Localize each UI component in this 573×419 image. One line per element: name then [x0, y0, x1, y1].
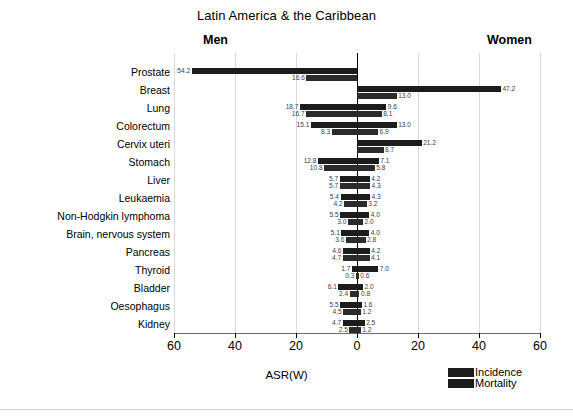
incidence-bar-right: [357, 104, 386, 110]
value-label: 3.2: [368, 201, 377, 207]
legend-label-mortality: Mortality: [475, 378, 517, 389]
mortality-bar-left: [346, 237, 357, 243]
value-label: 2.8: [367, 237, 376, 243]
category-label: Thyroid: [135, 264, 170, 276]
incidence-bar-right: [357, 140, 422, 146]
value-label: 7.0: [380, 266, 389, 272]
mortality-bar-left: [306, 75, 357, 81]
gridline: [418, 53, 419, 333]
tick-label: 60: [520, 339, 560, 353]
mortality-bar-left: [306, 111, 357, 117]
value-label: 1.6: [363, 302, 372, 308]
tick-mark: [296, 333, 297, 338]
incidence-bar-left: [311, 122, 357, 128]
tick-label: 40: [215, 339, 255, 353]
value-label: 0.8: [361, 291, 370, 297]
incidence-bar-right: [357, 230, 369, 236]
incidence-bar-right: [357, 194, 370, 200]
mortality-bar-left: [348, 219, 357, 225]
value-label: 1.7: [341, 266, 350, 272]
mortality-bar-left: [343, 255, 357, 261]
mortality-bar-left: [350, 291, 357, 297]
incidence-bar-left: [338, 284, 357, 290]
value-label: 5.8: [376, 165, 385, 171]
incidence-bar-left: [340, 176, 357, 182]
value-label: 18.7: [286, 104, 299, 110]
category-label: Bladder: [134, 282, 170, 294]
category-label: Brain, nervous system: [66, 228, 170, 240]
legend-item-mortality: Mortality: [448, 378, 522, 389]
incidence-bar-left: [340, 302, 357, 308]
tick-mark: [540, 333, 541, 338]
category-label: Prostate: [131, 66, 170, 78]
value-label: 6.9: [380, 129, 389, 135]
tick-label: 0: [337, 339, 377, 353]
value-label: 15.1: [297, 122, 310, 128]
value-label: 10.8: [310, 165, 323, 171]
tick-mark: [235, 333, 236, 338]
tick-mark: [357, 333, 358, 338]
value-label: 47.2: [502, 86, 515, 92]
value-label: 5.7: [329, 176, 338, 182]
value-label: 4.2: [371, 248, 380, 254]
value-label: 5.5: [330, 212, 339, 218]
value-label: 5.7: [329, 183, 338, 189]
value-label: 5.5: [330, 302, 339, 308]
category-label: Breast: [140, 84, 170, 96]
value-label: 0.6: [360, 273, 369, 279]
mortality-bar-right: [357, 255, 370, 261]
value-label: 21.2: [423, 140, 436, 146]
value-label: 1.2: [362, 327, 371, 333]
plot-area: 54.216.647.213.018.79.616.78.115.113.08.…: [174, 53, 540, 333]
value-label: 4.2: [334, 201, 343, 207]
incidence-bar-left: [341, 230, 357, 236]
category-label: Kidney: [138, 318, 170, 330]
incidence-bar-left: [343, 320, 357, 326]
value-label: 8.7: [385, 147, 394, 153]
value-label: 1.2: [362, 309, 371, 315]
legend: Incidence Mortality: [448, 367, 522, 389]
chart-figure: Latin America & the Caribbean Men Women …: [0, 0, 573, 419]
value-label: 7.1: [380, 158, 389, 164]
mortality-bar-right: [357, 147, 384, 153]
category-label: Cervix uteri: [117, 138, 170, 150]
mortality-bar-right: [357, 219, 363, 225]
value-label: 5.4: [330, 194, 339, 200]
gridline: [540, 53, 541, 333]
incidence-bar-left: [340, 212, 357, 218]
incidence-bar-right: [357, 158, 379, 164]
mortality-bar-right: [357, 165, 375, 171]
value-label: 9.6: [388, 104, 397, 110]
tick-mark: [174, 333, 175, 338]
value-label: 54.2: [177, 68, 190, 74]
incidence-bar-left: [341, 194, 357, 200]
category-label: Stomach: [129, 156, 170, 168]
women-group-label: Women: [487, 33, 532, 47]
tick-mark: [418, 333, 419, 338]
value-label: 4.0: [371, 212, 380, 218]
value-label: 13.0: [398, 122, 411, 128]
incidence-bar-right: [357, 284, 363, 290]
category-label: Oesophagus: [110, 300, 170, 312]
category-label: Liver: [147, 174, 170, 186]
incidence-bar-right: [357, 320, 365, 326]
mortality-bar-left: [332, 129, 357, 135]
category-label: Lung: [147, 102, 170, 114]
value-label: 4.7: [332, 255, 341, 261]
mortality-bar-right: [357, 273, 359, 279]
tick-mark: [479, 333, 480, 338]
value-label: 4.1: [371, 255, 380, 261]
mortality-bar-right: [357, 129, 378, 135]
mortality-bar-right: [357, 183, 370, 189]
gridline: [235, 53, 236, 333]
page-title: Latin America & the Caribbean: [0, 8, 573, 23]
gridline: [296, 53, 297, 333]
incidence-bar-right: [357, 266, 378, 272]
category-label: Non-Hodgkin lymphoma: [57, 210, 170, 222]
value-label: 13.0: [398, 93, 411, 99]
value-label: 3.0: [337, 219, 346, 225]
value-label: 4.6: [332, 248, 341, 254]
mortality-bar-right: [357, 291, 359, 297]
tick-label: 20: [398, 339, 438, 353]
incidence-bar-right: [357, 176, 370, 182]
